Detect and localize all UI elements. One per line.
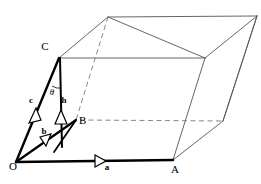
dashed-edge-C-to-top-face-left — [76, 17, 108, 120]
vertex-label-A: A — [171, 163, 179, 175]
bold-vectors-group — [16, 58, 173, 162]
angle-labels-group: θ — [50, 87, 55, 97]
arrowhead-c — [29, 108, 41, 123]
angle-label-theta: θ — [50, 87, 55, 97]
figure-root: O A B C a b c h θ — [0, 0, 261, 184]
edge-c-right-to-top-right — [205, 16, 257, 58]
arrowhead-h — [55, 110, 67, 124]
edge-top-face-left-to-c-right — [108, 17, 205, 58]
vector-label-c: c — [29, 95, 33, 105]
edge-b-right-to-top-right-alt — [223, 16, 257, 121]
arrowheads-group — [29, 108, 106, 167]
vector-label-b: b — [41, 126, 46, 136]
edge-c-right-to-A — [173, 58, 205, 160]
vertex-label-O: O — [9, 160, 17, 172]
edge-C-to-top-face-left — [59, 17, 108, 58]
dashed-edges-group — [76, 17, 223, 121]
vertex-label-B: B — [79, 114, 86, 126]
edge-top-left-to-top-right — [108, 16, 257, 17]
dashed-edge-B-to-b-right — [80, 120, 223, 121]
vector-label-a: a — [105, 162, 110, 172]
thin-edges-group — [59, 16, 257, 160]
vector-label-h: h — [61, 95, 66, 105]
vertex-labels-group: O A B C — [9, 40, 179, 175]
parallelepiped-diagram: O A B C a b c h θ — [0, 0, 261, 184]
vertex-label-C: C — [41, 40, 48, 52]
edge-B-to-base — [54, 120, 76, 152]
edge-A-to-b-right — [173, 121, 223, 160]
